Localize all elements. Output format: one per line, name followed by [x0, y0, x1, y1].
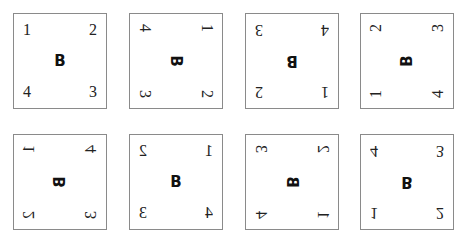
corner-label: 1 [315, 208, 331, 222]
corner-label: 4 [202, 205, 216, 221]
corner-label: 2 [86, 22, 100, 38]
square-reflect-vertical: 1 2 4 3 B [129, 134, 223, 230]
corner-label: 4 [430, 87, 446, 101]
corner-label: 2 [433, 205, 447, 221]
center-letter: B [167, 53, 185, 69]
corner-label: 2 [252, 84, 266, 100]
corner-label: 3 [430, 21, 446, 35]
corner-label: 1 [367, 205, 381, 221]
corner-label: 3 [86, 84, 100, 100]
corner-label: 2 [136, 143, 150, 159]
corner-label: 3 [136, 205, 150, 221]
corner-label: 4 [253, 208, 269, 222]
corner-label: 2 [368, 21, 384, 35]
center-letter: B [399, 173, 415, 191]
center-letter: B [398, 53, 416, 69]
corner-label: 3 [137, 87, 153, 101]
square-rotate-270: 1 2 4 3 B [360, 13, 454, 109]
corner-label: 1 [318, 84, 332, 100]
corner-label: 1 [21, 142, 37, 156]
corner-label: 2 [315, 142, 331, 156]
center-letter: B [168, 173, 184, 191]
center-letter: B [51, 174, 69, 190]
corner-label: 4 [318, 22, 332, 38]
corner-label: 1 [20, 22, 34, 38]
corner-label: 1 [368, 87, 384, 101]
corner-label: 4 [83, 142, 99, 156]
corner-label: 2 [21, 208, 37, 222]
corner-label: 4 [367, 143, 381, 159]
square-reflect-antidiagonal: 1 2 4 3 B [245, 134, 339, 230]
center-letter: B [284, 52, 300, 70]
corner-label: 4 [137, 21, 153, 35]
center-letter: B [52, 52, 68, 70]
corner-label: 3 [83, 208, 99, 222]
corner-label: 3 [252, 22, 266, 38]
corner-label: 2 [199, 87, 215, 101]
corner-label: 1 [202, 143, 216, 159]
square-identity: 1 2 4 3 B [13, 13, 107, 109]
square-reflect-horizontal: 1 2 4 3 B [360, 134, 454, 230]
center-letter: B [283, 174, 301, 190]
corner-label: 4 [20, 84, 34, 100]
corner-label: 1 [199, 21, 215, 35]
corner-label: 3 [433, 143, 447, 159]
corner-label: 3 [253, 142, 269, 156]
square-rotate-90: 1 2 4 3 B [129, 13, 223, 109]
square-rotate-180: 1 2 4 3 B [245, 13, 339, 109]
square-reflect-diagonal: 1 2 4 3 B [13, 134, 107, 230]
